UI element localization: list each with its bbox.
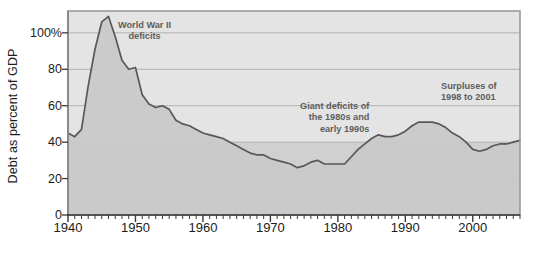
- annotation-line: World War II: [118, 20, 171, 31]
- x-axis-tick-label: 1990: [391, 220, 420, 235]
- caption-strip: [0, 250, 534, 257]
- plot-area: [0, 0, 534, 257]
- x-axis-tick-label: 1950: [121, 220, 150, 235]
- x-axis-tick-label: 1960: [188, 220, 217, 235]
- y-axis-tick-label: 20: [48, 172, 62, 186]
- annotation-world-war-ii-deficits: World War IIdeficits: [118, 20, 171, 43]
- x-axis-tick-label: 1970: [256, 220, 285, 235]
- x-axis-tick-label: 1940: [54, 220, 83, 235]
- annotation-line: Surpluses of: [441, 81, 497, 92]
- chart-figure: Debt as percent of GDP 020406080100% Wor…: [0, 0, 534, 257]
- annotation-line: the 1980s and: [300, 112, 369, 123]
- x-axis-tick-label: 2000: [458, 220, 487, 235]
- y-axis-title: Debt as percent of GDP: [6, 49, 20, 184]
- y-axis-tick-label: 40: [48, 135, 62, 149]
- annotation-line: deficits: [118, 31, 171, 42]
- annotation-line: Giant deficits of: [300, 101, 369, 112]
- annotation-surpluses: Surpluses of1998 to 2001: [441, 81, 497, 104]
- annotation-line: 1998 to 2001: [441, 92, 497, 103]
- y-axis-tick-labels: 020406080100%: [20, 0, 62, 257]
- y-axis-tick-label: 60: [48, 99, 62, 113]
- y-axis-tick-label: 100%: [30, 26, 62, 40]
- x-axis-tick-label: 1980: [323, 220, 352, 235]
- annotation-line: early 1990s: [300, 124, 369, 135]
- annotation-giant-deficits: Giant deficits ofthe 1980s andearly 1990…: [300, 101, 369, 135]
- y-axis-tick-label: 80: [48, 62, 62, 76]
